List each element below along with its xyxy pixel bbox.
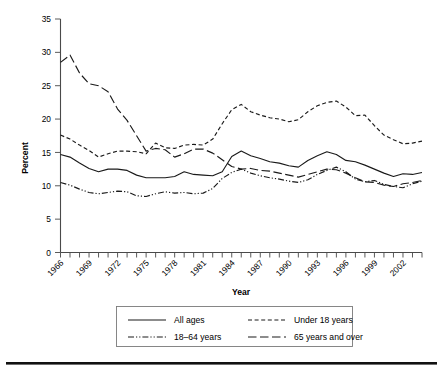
x-tick-label: 1987 [245, 258, 265, 278]
x-tick-label: 1996 [331, 258, 351, 278]
x-tick-label: 1975 [131, 258, 151, 278]
y-tick-label: 30 [42, 47, 52, 57]
legend-label-all-ages: All ages [174, 315, 205, 325]
x-tick-label: 1978 [159, 258, 179, 278]
x-axis-title: Year [232, 287, 251, 297]
series-line-under-18-years [61, 101, 423, 157]
x-tick-label: 1981 [188, 258, 208, 278]
line-chart: 05101520253035 1966196919721975197819811… [0, 0, 443, 372]
chart-figure: 05101520253035 1966196919721975197819811… [0, 0, 443, 372]
y-tick-label: 0 [46, 248, 51, 258]
x-tick-label: 1990 [273, 258, 293, 278]
series-group [61, 55, 423, 196]
legend-label-under-18-years: Under 18 years [294, 315, 353, 325]
y-axis-ticks: 05101520253035 [42, 14, 61, 258]
x-tick-label: 1984 [216, 258, 236, 278]
x-tick-label: 1993 [302, 258, 322, 278]
x-axis-ticks: 1966196919721975197819811984198719901993… [45, 253, 422, 279]
chart-legend: All agesUnder 18 years18–64 years65 year… [117, 307, 363, 347]
legend-label-65-years-and-over: 65 years and over [294, 332, 363, 342]
y-tick-label: 15 [42, 148, 52, 158]
y-tick-label: 35 [42, 14, 52, 24]
x-tick-label: 1966 [45, 258, 65, 278]
y-tick-label: 20 [42, 114, 52, 124]
legend-label-18-64-years: 18–64 years [174, 332, 221, 342]
bottom-rule [6, 362, 437, 365]
y-axis-title: Percent [20, 142, 30, 174]
y-tick-label: 10 [42, 181, 52, 191]
x-tick-label: 1972 [102, 258, 122, 278]
x-tick-label: 2002 [388, 258, 408, 278]
y-tick-label: 25 [42, 81, 52, 91]
x-tick-label: 1999 [359, 258, 379, 278]
x-tick-label: 1969 [74, 258, 94, 278]
y-tick-label: 5 [46, 214, 51, 224]
series-line-all-ages [61, 151, 423, 178]
